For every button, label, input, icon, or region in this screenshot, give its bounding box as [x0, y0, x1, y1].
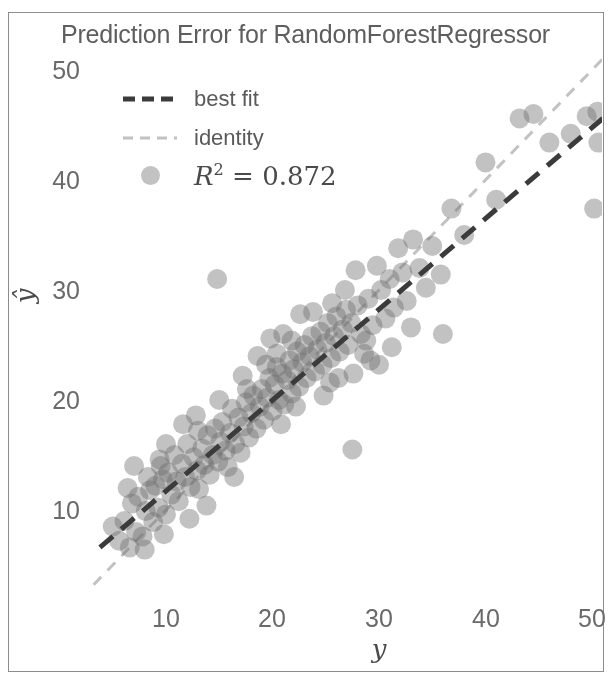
legend-label-r-squared: R2 = 0.872 [194, 160, 337, 191]
x-tick-10: 10 [152, 604, 180, 633]
identity-line-swatch-icon [122, 131, 178, 145]
x-axis-label: y [372, 634, 387, 664]
r-squared-exponent: 2 [214, 160, 224, 179]
r-squared-equals: = [224, 161, 262, 191]
r-squared-symbol: R [194, 161, 214, 191]
x-tick-40: 40 [472, 604, 500, 633]
best-fit-line-swatch-icon [122, 92, 178, 106]
prediction-error-figure: Prediction Error for RandomForestRegress… [0, 0, 611, 685]
legend-entry-best-fit: best fit [122, 86, 259, 112]
legend-label-best-fit: best fit [194, 86, 259, 112]
y-tick-40: 40 [24, 166, 80, 195]
legend-label-identity: identity [194, 125, 264, 151]
x-tick-20: 20 [258, 604, 286, 633]
y-axis-label: ŷ [10, 289, 40, 304]
chart-title: Prediction Error for RandomForestRegress… [0, 20, 611, 49]
x-tick-50: 50 [578, 604, 606, 633]
legend-entry-r-squared: R2 = 0.872 [122, 160, 337, 191]
y-tick-20: 20 [24, 386, 80, 415]
y-tick-50: 50 [24, 56, 80, 85]
legend-entry-identity: identity [122, 125, 264, 151]
scatter-marker-swatch-icon [122, 166, 178, 185]
r-squared-value: 0.872 [262, 161, 336, 191]
y-tick-10: 10 [24, 496, 80, 525]
x-tick-30: 30 [365, 604, 393, 633]
scatter-plot-canvas [0, 0, 611, 685]
